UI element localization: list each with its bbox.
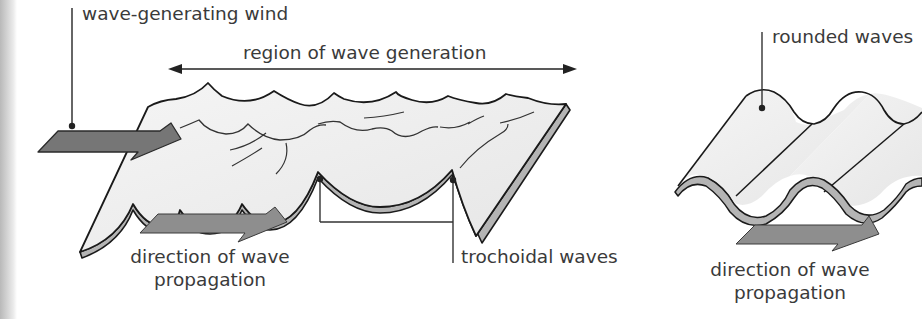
wind-label: wave-generating wind <box>82 2 288 25</box>
right-direction-label-line1: direction of wave <box>690 258 890 281</box>
left-direction-label-line2: propagation <box>110 268 310 291</box>
rounded-waves-label: rounded waves <box>772 25 913 48</box>
region-label: region of wave generation <box>243 41 486 64</box>
left-direction-label-line1: direction of wave <box>110 245 310 268</box>
right-direction-label-line2: propagation <box>690 281 890 304</box>
rounded-wave-sheet <box>675 90 922 226</box>
trochoidal-label: trochoidal waves <box>461 245 618 268</box>
right-direction-label: direction of wave propagation <box>690 258 890 304</box>
double-headed-arrow-icon <box>168 64 577 74</box>
left-direction-label: direction of wave propagation <box>110 245 310 291</box>
